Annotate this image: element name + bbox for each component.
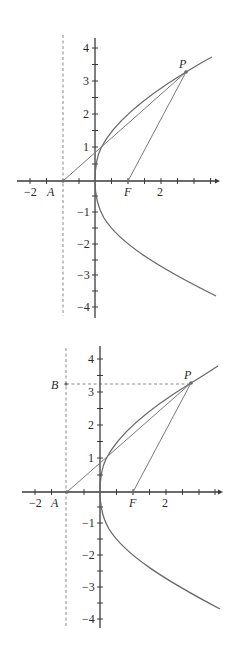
point-A: [61, 179, 65, 183]
label-B: B: [51, 378, 59, 392]
x-tick-label: 2: [162, 496, 168, 510]
point-F: [132, 491, 135, 494]
parabola-lower-branch: [100, 492, 220, 609]
x-axis-arrow-icon: [218, 490, 223, 495]
line-AP: [63, 72, 186, 181]
point-A: [65, 490, 69, 494]
y-tick-label: 3: [88, 385, 94, 399]
label-F: F: [123, 185, 132, 199]
y-tick-label: −3: [82, 580, 95, 594]
figure-canvas: −2 2 4 3 2 1 −1 −2 −3 −4 A F P: [0, 0, 233, 650]
y-tick-label: 4: [83, 41, 89, 55]
x-tick-label: −2: [29, 496, 42, 510]
x-axis-arrow-icon: [215, 179, 220, 184]
y-tick-label: −2: [82, 548, 95, 562]
line-FP: [128, 72, 186, 181]
y-tick-label: −2: [77, 237, 90, 251]
x-tick-label: 2: [157, 185, 163, 199]
y-tick-label: 3: [83, 74, 89, 88]
bottom-figure: −2 2 4 3 2 1 −1 −2 −3 −4 A F P B: [22, 346, 223, 628]
y-tick-label: 2: [88, 418, 94, 432]
line-FP: [133, 383, 191, 492]
label-A: A: [46, 185, 55, 199]
y-tick-label: −4: [77, 300, 90, 314]
y-tick-label: −3: [77, 268, 90, 282]
y-tick-label: −1: [77, 205, 90, 219]
label-A: A: [50, 496, 59, 510]
y-tick-label: 1: [83, 140, 89, 154]
label-P: P: [178, 57, 187, 71]
label-F: F: [128, 496, 137, 510]
parabola-upper-branch: [100, 366, 218, 492]
parabola-upper-branch: [95, 57, 212, 181]
parabola-lower-branch: [95, 181, 216, 296]
line-AP: [67, 383, 191, 492]
y-tick-label: −4: [82, 612, 95, 626]
y-tick-label: 2: [83, 107, 89, 121]
y-tick-label: 1: [88, 451, 94, 465]
point-F: [127, 180, 130, 183]
y-tick-label: −1: [82, 516, 95, 530]
point-B: [64, 382, 67, 385]
x-tick-label: −2: [24, 185, 37, 199]
y-tick-label: 4: [88, 352, 94, 366]
label-P: P: [183, 368, 192, 382]
top-figure: −2 2 4 3 2 1 −1 −2 −3 −4 A F P: [17, 35, 220, 318]
